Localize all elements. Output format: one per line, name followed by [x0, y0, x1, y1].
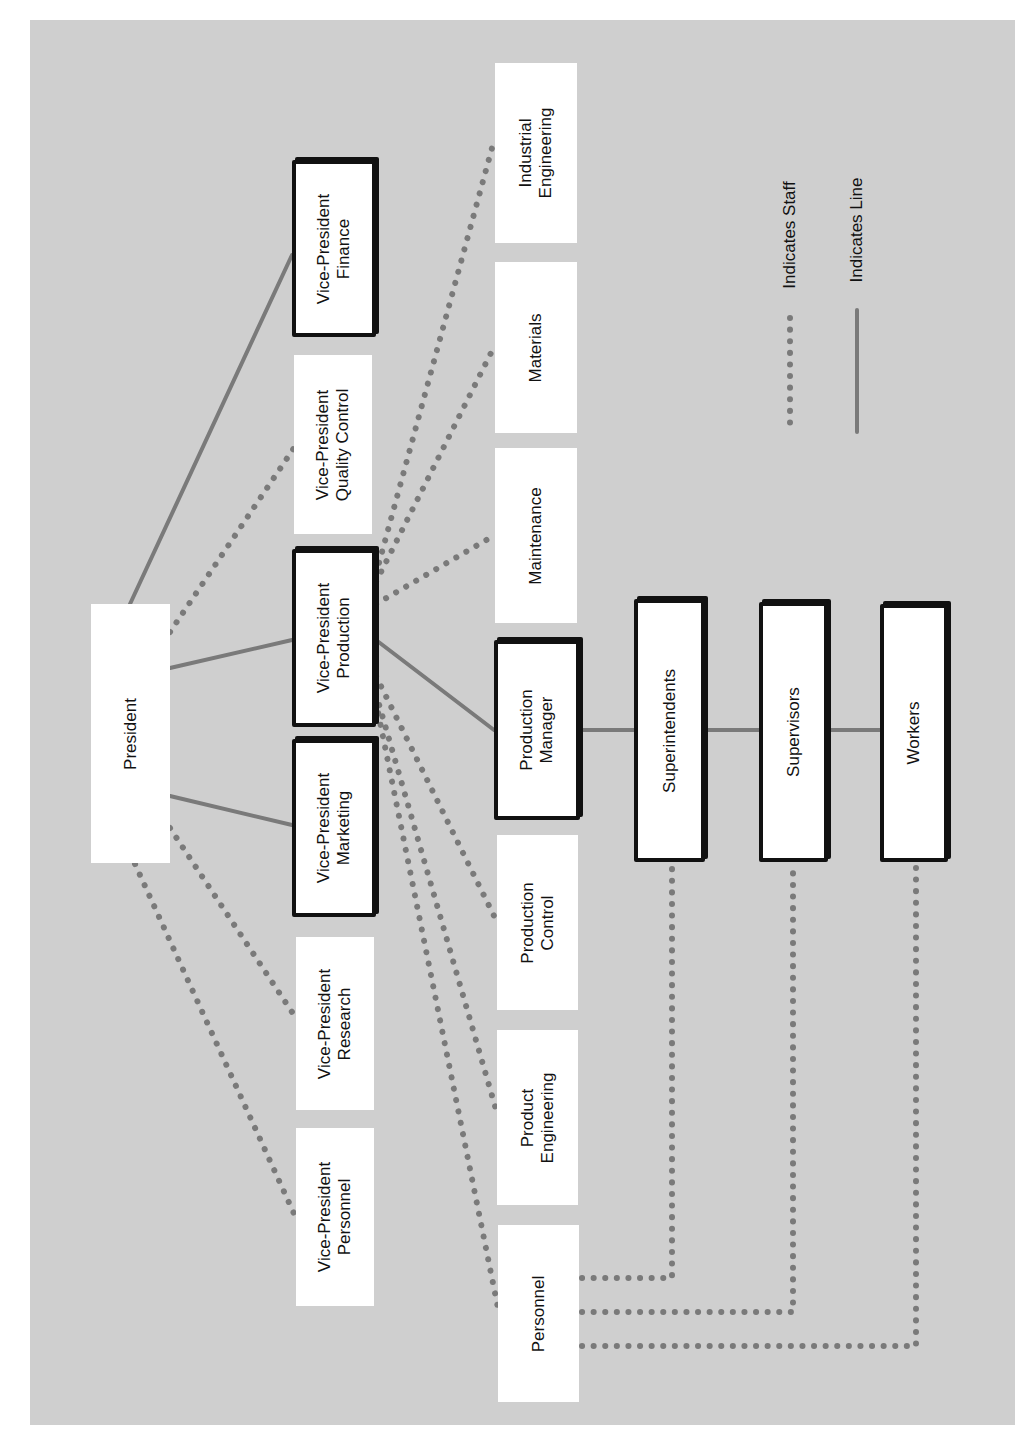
staff-vp-production-production-control — [376, 676, 497, 922]
node-vp-quality-control: Vice-President Quality Control — [294, 355, 372, 534]
node-industrial-engineering: Industrial Engineering — [495, 63, 577, 243]
node-label: Materials — [526, 313, 546, 382]
staff-vp-production-personnel — [376, 702, 498, 1308]
staff-personnel-superintendents — [582, 862, 672, 1278]
node-label: Industrial Engineering — [516, 108, 556, 199]
node-materials: Materials — [495, 262, 577, 433]
node-maintenance: Maintenance — [495, 448, 577, 623]
node-vp-production: Vice-President Production — [292, 549, 376, 727]
staff-vp-production-product-engineering — [376, 694, 497, 1113]
line-president-vp-finance — [130, 255, 292, 604]
node-label: Vice-President Production — [314, 583, 354, 693]
node-label: Production Manager — [517, 689, 557, 770]
node-production-manager: Production Manager — [494, 640, 580, 820]
node-label: Vice-President Finance — [314, 193, 354, 303]
node-label: Production Control — [518, 882, 558, 963]
node-supervisors: Supervisors — [759, 602, 828, 862]
staff-vp-production-industrial-engineering — [376, 148, 492, 574]
node-production-control: Production Control — [497, 835, 578, 1010]
staff-vp-production-maintenance — [376, 535, 495, 604]
node-label: Product Engineering — [518, 1072, 558, 1163]
node-label: President — [121, 698, 141, 770]
node-label: Superintendents — [660, 669, 680, 793]
node-label: Vice-President Marketing — [314, 773, 354, 883]
node-personnel: Personnel — [498, 1225, 579, 1402]
staff-personnel-workers — [582, 862, 916, 1346]
line-president-vp-production — [170, 640, 292, 668]
node-label: Vice-President Personnel — [315, 1162, 355, 1272]
staff-president-vp-research — [170, 828, 296, 1018]
node-label: Maintenance — [526, 487, 546, 584]
staff-personnel-supervisors — [582, 862, 793, 1312]
node-vp-personnel: Vice-President Personnel — [296, 1128, 374, 1306]
line-vp-production-production-manager — [376, 640, 494, 730]
node-workers: Workers — [880, 604, 948, 862]
legend-line-label: Indicates Line — [847, 178, 867, 283]
node-vp-finance: Vice-President Finance — [292, 160, 376, 337]
node-product-engineering: Product Engineering — [497, 1030, 578, 1205]
node-label: Vice-President Quality Control — [313, 388, 353, 500]
node-label: Personnel — [529, 1275, 549, 1352]
line-president-vp-marketing — [170, 796, 292, 825]
staff-president-vp-personnel — [135, 864, 296, 1218]
node-vp-research: Vice-President Research — [296, 937, 374, 1110]
node-label: Workers — [904, 702, 924, 765]
node-vp-marketing: Vice-President Marketing — [292, 739, 376, 917]
legend-staff-label: Indicates Staff — [780, 181, 800, 288]
node-superintendents: Superintendents — [634, 599, 705, 862]
node-label: Vice-President Research — [315, 968, 355, 1078]
node-president: President — [91, 604, 170, 863]
node-label: Supervisors — [784, 687, 804, 777]
